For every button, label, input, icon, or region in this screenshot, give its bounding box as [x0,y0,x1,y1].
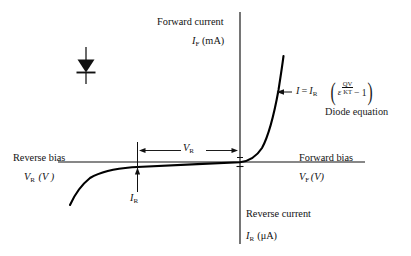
forward-current-subscript: F [195,40,199,48]
forward-bias-unit-paren: (V) [311,171,324,182]
forward-current-units: IF(mA) [192,36,224,48]
equation-exponential: ε QV KT − 1 [338,84,367,99]
forward-current-unit-paren: (mA) [202,35,224,46]
equation-left-side: I=IR [296,85,317,98]
reverse-bias-units: VR(V ) [24,172,54,184]
reverse-current-unit-paren: (μA) [257,230,277,241]
span-arrowhead-right [232,148,239,153]
forward-bias-units: VF(V) [299,172,324,184]
diode-symbol [77,47,96,84]
equation-equals: = [301,85,307,96]
equation-current-symbol: I [296,85,299,96]
equation-saturation-subscript: R [313,90,318,98]
span-subscript: R [189,147,194,155]
reverse-voltage-span-label: VR [183,143,194,155]
leakage-subscript: R [133,197,138,205]
reverse-current-title: Reverse current [246,209,311,220]
diode-equation: I=IR ( ε QV KT − 1 ) [296,84,375,99]
reverse-current-units: IR(μA) [246,231,277,243]
diode-equation-caption: Diode equation [325,106,388,117]
diode-iv-characteristic-figure: Forward current IF(mA) Reverse current I… [0,0,411,256]
reverse-current-subscript: R [249,235,254,243]
forward-bias-title: Forward bias [299,153,353,164]
forward-bias-subscript: F [305,176,309,184]
equation-exponent-fraction: QV KT [342,80,354,95]
reverse-bias-title: Reverse bias [13,153,65,164]
forward-current-title: Forward current [157,17,224,28]
diode-triangle [78,60,95,73]
equation-minus-one: − 1 [354,87,367,98]
reverse-bias-subscript: R [30,176,35,184]
span-arrowhead-left [139,148,146,153]
equation-exponent-denominator: KT [342,88,353,95]
leakage-arrowhead [135,168,140,175]
equation-exponent-numerator: QV [342,80,354,87]
leakage-current-label: IR [130,193,138,205]
diode-iv-curve [70,56,284,205]
reverse-bias-unit-paren: (V ) [39,171,55,182]
equation-epsilon-base: ε [338,87,342,97]
